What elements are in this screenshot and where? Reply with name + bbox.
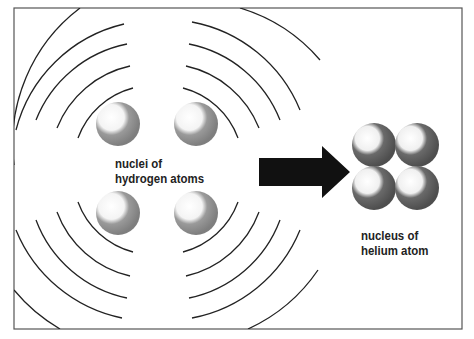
helium-label-line2: helium atom [361,243,428,258]
hydrogen-label-line1: nuclei of [115,156,204,171]
hydrogen-label: nuclei of hydrogen atoms [115,156,204,186]
hydrogen-label-line2: hydrogen atoms [115,171,204,186]
hydrogen-nucleus-1 [96,102,140,146]
hydrogen-nucleus-2 [174,102,218,146]
helium-particle-3 [352,166,396,210]
hydrogen-nucleus-4 [174,191,218,235]
helium-particle-1 [352,123,396,167]
helium-particle-4 [395,166,439,210]
helium-label-line1: nucleus of [361,228,428,243]
hydrogen-nucleus-3 [96,191,140,235]
fusion-diagram [0,0,474,339]
helium-label: nucleus of helium atom [361,228,428,258]
helium-particle-2 [395,123,439,167]
diagram-frame [14,8,462,329]
